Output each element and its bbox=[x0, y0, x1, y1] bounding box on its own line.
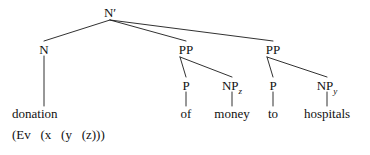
node-p-1-label: P bbox=[182, 78, 189, 93]
node-np-y: NPy bbox=[317, 79, 338, 96]
node-n: N bbox=[39, 43, 48, 56]
leaf-hospitals: hospitals bbox=[304, 107, 350, 120]
node-pp-2: PP bbox=[266, 43, 280, 56]
node-pp-2-label: PP bbox=[266, 42, 280, 57]
node-np-y-subscript: y bbox=[333, 86, 337, 96]
node-np-y-label: NP bbox=[317, 78, 334, 93]
node-p-1: P bbox=[182, 79, 189, 92]
syntax-tree-figure: N′ N PP PP P NPz P NPy donation (Ev (x (… bbox=[0, 0, 370, 155]
node-np-z-subscript: z bbox=[239, 86, 243, 96]
leaf-of: of bbox=[181, 107, 192, 120]
node-n-bar-prime: ′ bbox=[113, 5, 116, 20]
node-p-2-label: P bbox=[269, 78, 276, 93]
node-pp-1: PP bbox=[179, 43, 193, 56]
leaf-to: to bbox=[268, 107, 278, 120]
semantic-representation: (Ev (x (y (z))) bbox=[12, 128, 105, 141]
edge-root-to-pp2 bbox=[110, 20, 273, 41]
node-np-z: NPz bbox=[222, 79, 242, 96]
edge-root-to-pp1 bbox=[110, 20, 186, 41]
node-pp-1-label: PP bbox=[179, 42, 193, 57]
edge-pp1-to-npz bbox=[180, 57, 232, 77]
edge-root-to-n bbox=[44, 20, 110, 41]
edge-pp2-to-p2 bbox=[267, 57, 273, 77]
edge-pp1-to-p1 bbox=[180, 57, 186, 77]
node-n-bar-label: N bbox=[104, 5, 113, 20]
leaf-donation: donation bbox=[12, 107, 58, 120]
node-np-z-label: NP bbox=[222, 78, 239, 93]
node-n-label: N bbox=[39, 42, 48, 57]
node-n-bar: N′ bbox=[104, 6, 116, 19]
leaf-money: money bbox=[214, 107, 249, 120]
node-p-2: P bbox=[269, 79, 276, 92]
edge-pp2-to-npy bbox=[267, 57, 327, 77]
